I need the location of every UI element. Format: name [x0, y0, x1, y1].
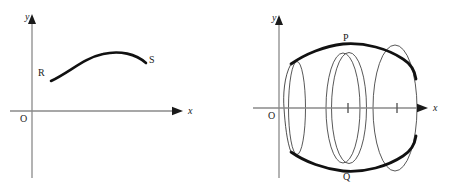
x-axis-label: x — [432, 102, 438, 113]
arc-RS — [51, 52, 146, 81]
origin-label: O — [268, 110, 275, 121]
point-label-P: P — [343, 32, 349, 43]
x-axis-left — [10, 107, 183, 115]
figure-pair: y x O R S — [0, 0, 449, 183]
x-axis-arrowhead — [417, 104, 428, 112]
point-label-R: R — [38, 67, 45, 78]
x-axis-arrowhead — [172, 107, 183, 115]
y-axis-label: y — [24, 11, 30, 22]
solid-upper-profile — [291, 44, 416, 79]
y-axis-right — [275, 15, 283, 178]
x-axis-label: x — [187, 105, 193, 116]
solid-lower-profile — [291, 136, 416, 171]
origin-label: O — [20, 113, 27, 124]
y-axis-label: y — [271, 12, 277, 23]
right-panel: y x O P Q — [225, 0, 449, 183]
left-panel: y x O R S — [0, 0, 225, 183]
point-label-Q: Q — [343, 171, 351, 182]
point-label-S: S — [149, 54, 155, 65]
right-panel-svg: y x O P Q — [225, 0, 449, 183]
y-axis-left — [28, 14, 36, 178]
left-panel-svg: y x O R S — [0, 0, 225, 183]
